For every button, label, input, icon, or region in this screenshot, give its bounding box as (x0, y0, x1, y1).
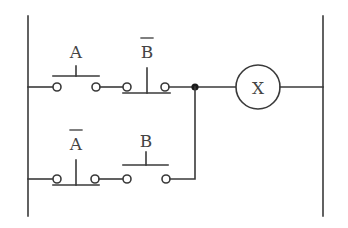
terminal (92, 83, 100, 91)
contact-b-normally-open: B (123, 131, 170, 183)
contact-label: B (141, 42, 154, 62)
contact-label: A (69, 42, 83, 62)
terminal (53, 83, 61, 91)
terminal (123, 175, 131, 183)
contact-label: B (140, 131, 153, 151)
contact-b-bar-normally-closed: B (123, 38, 170, 93)
terminal (53, 175, 61, 183)
contact-a-normally-open: A (53, 42, 100, 91)
ladder-diagram: A B X A (0, 0, 348, 228)
terminal (162, 175, 170, 183)
rung-2: A B (28, 87, 195, 185)
terminal (161, 83, 169, 91)
terminal (91, 175, 99, 183)
coil-label: X (252, 78, 265, 98)
terminal (123, 83, 131, 91)
rung-1: A B X (28, 38, 323, 109)
parallel-branch-wire (170, 87, 195, 179)
contact-label: A (69, 134, 83, 154)
output-coil-x: X (236, 65, 280, 109)
contact-a-bar-normally-closed: A (53, 130, 99, 185)
